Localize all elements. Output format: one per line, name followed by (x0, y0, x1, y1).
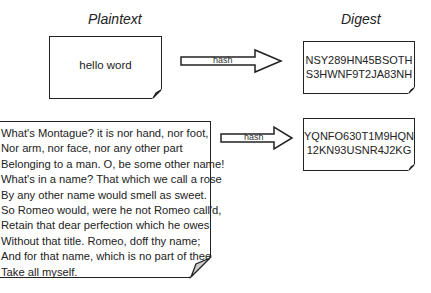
hash-arrow-1-label: hash (213, 55, 233, 65)
folded-corner-icon (152, 89, 162, 99)
folded-corner-icon (189, 255, 212, 278)
diagram-overlay (0, 0, 431, 293)
folded-corner-icon (408, 87, 415, 94)
folded-corner-icon (408, 164, 415, 171)
hash-arrow-2-label: hash (244, 132, 264, 142)
